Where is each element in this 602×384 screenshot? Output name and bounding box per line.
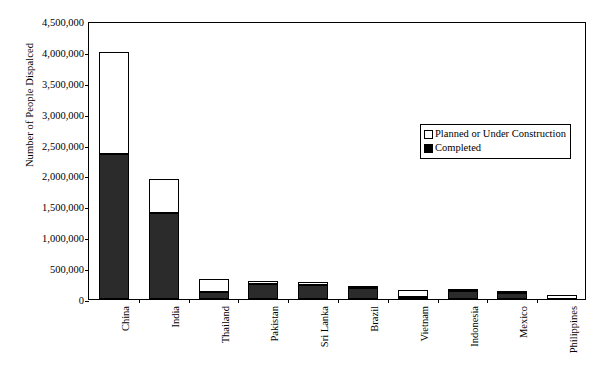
- plot-area: Planned or Under ConstructionCompleted: [88, 22, 586, 300]
- x-axis-tick-label: India: [169, 306, 183, 384]
- x-axis-tick-label: Pakistan: [268, 306, 282, 384]
- x-axis-tick-mark: [487, 299, 488, 303]
- y-axis-tick-label: 0: [0, 295, 84, 306]
- bar-group: [149, 21, 179, 299]
- y-axis-tick-label: 500,000: [0, 264, 84, 275]
- bar-group: [398, 21, 428, 299]
- y-axis-tick-mark: [85, 147, 89, 148]
- bar-segment-completed: [348, 288, 378, 299]
- y-axis-tick-label: 2,500,000: [0, 140, 84, 151]
- bar-segment-completed: [298, 285, 328, 299]
- bar-segment-completed: [149, 213, 179, 299]
- y-axis-tick-labels: 4,500,0004,000,0003,500,0003,000,0002,50…: [0, 0, 84, 384]
- bar-group: [248, 21, 278, 299]
- bar-segment-planned: [398, 290, 428, 297]
- x-axis-tick-labels: ChinaIndiaThailandPakistanSri LankaBrazi…: [88, 306, 586, 384]
- x-axis-tick-mark: [438, 299, 439, 303]
- y-axis-tick-mark: [85, 239, 89, 240]
- bar-group: [348, 21, 378, 299]
- bar-segment-planned: [448, 289, 478, 291]
- bar-segment-planned: [149, 179, 179, 213]
- y-axis-tick-mark: [85, 270, 89, 271]
- bar-segment-planned: [199, 279, 229, 292]
- legend-swatch-planned-icon: [424, 130, 433, 139]
- bar-group: [99, 21, 129, 299]
- y-axis-tick-label: 2,000,000: [0, 171, 84, 182]
- y-axis-tick-label: 4,500,000: [0, 17, 84, 28]
- legend-item: Completed: [424, 141, 566, 155]
- y-axis-tick-mark: [85, 301, 89, 302]
- bar-chart: Number of People Dispalced 4,500,0004,00…: [0, 0, 602, 384]
- y-axis-tick-label: 3,000,000: [0, 109, 84, 120]
- x-axis-tick-mark: [388, 299, 389, 303]
- y-axis-tick-label: 3,500,000: [0, 78, 84, 89]
- x-axis-tick-label: Brazil: [368, 306, 382, 384]
- y-axis-tick-mark: [85, 85, 89, 86]
- x-axis-tick-mark: [139, 299, 140, 303]
- x-axis-tick-mark: [288, 299, 289, 303]
- bar-group: [547, 21, 577, 299]
- bar-segment-planned: [547, 295, 577, 299]
- bar-segment-completed: [199, 292, 229, 299]
- x-axis-tick-label: China: [119, 306, 133, 384]
- y-axis-tick-mark: [85, 208, 89, 209]
- y-axis-tick-label: 1,500,000: [0, 202, 84, 213]
- x-axis-tick-mark: [189, 299, 190, 303]
- chart-legend: Planned or Under ConstructionCompleted: [420, 124, 571, 159]
- bar-segment-completed: [248, 284, 278, 299]
- legend-label: Planned or Under Construction: [435, 128, 566, 140]
- legend-swatch-completed-icon: [424, 144, 433, 153]
- bar-segment-planned: [298, 282, 328, 285]
- x-axis-tick-label: Thailand: [219, 306, 233, 384]
- x-axis-tick-mark: [238, 299, 239, 303]
- bar-segment-planned: [99, 52, 129, 154]
- x-axis-tick-label: Sri Lanka: [318, 306, 332, 384]
- x-axis-tick-label: Indonesia: [468, 306, 482, 384]
- x-axis-tick-label: Vietnam: [418, 306, 432, 384]
- y-axis-tick-mark: [85, 54, 89, 55]
- y-axis-tick-mark: [85, 116, 89, 117]
- bar-group: [298, 21, 328, 299]
- legend-item: Planned or Under Construction: [424, 127, 566, 141]
- bar-segment-planned: [497, 291, 527, 293]
- bar-segment-completed: [448, 291, 478, 299]
- x-axis-tick-mark: [338, 299, 339, 303]
- bar-segment-planned: [248, 281, 278, 284]
- x-axis-tick-label: Mexico: [517, 306, 531, 384]
- bar-group: [199, 21, 229, 299]
- x-axis-tick-mark: [537, 299, 538, 303]
- bar-group: [448, 21, 478, 299]
- bar-group: [497, 21, 527, 299]
- y-axis-tick-label: 4,000,000: [0, 47, 84, 58]
- y-axis-tick-label: 1,000,000: [0, 233, 84, 244]
- legend-label: Completed: [435, 142, 481, 154]
- y-axis-tick-mark: [85, 177, 89, 178]
- bar-segment-completed: [398, 297, 428, 299]
- bar-segment-completed: [99, 154, 129, 299]
- bar-segment-completed: [497, 293, 527, 299]
- x-axis-tick-label: Philippines: [567, 306, 581, 384]
- bar-segment-planned: [348, 286, 378, 288]
